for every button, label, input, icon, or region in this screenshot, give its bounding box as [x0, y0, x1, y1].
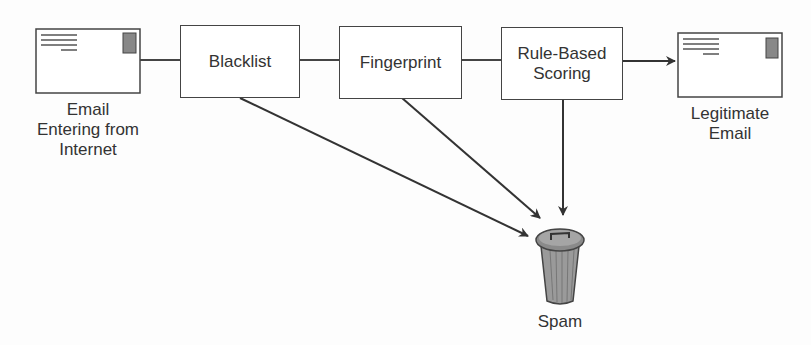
label-line: Internet — [28, 140, 148, 160]
node-label: Scoring — [533, 64, 591, 84]
spam-label: Spam — [520, 312, 600, 332]
node-label: Fingerprint — [360, 53, 441, 73]
rule-based-scoring-node: Rule-Based Scoring — [501, 27, 623, 100]
blacklist-node: Blacklist — [180, 25, 300, 98]
envelope-icon — [36, 29, 140, 93]
legitimate-email-label: Legitimate Email — [670, 104, 790, 144]
input-email-label: Email Entering from Internet — [28, 100, 148, 160]
node-label: Blacklist — [209, 52, 271, 72]
envelope-icon — [678, 33, 782, 97]
label-line: Entering from — [28, 120, 148, 140]
node-label: Rule-Based — [518, 44, 607, 64]
label-line: Email — [28, 100, 148, 120]
label-line: Email — [670, 124, 790, 144]
label-line: Legitimate — [670, 104, 790, 124]
trash-can-icon — [536, 229, 584, 304]
fingerprint-node: Fingerprint — [339, 26, 462, 99]
spam-filter-diagram: Email Entering from Internet Blacklist F… — [0, 0, 811, 345]
label-line: Spam — [538, 312, 582, 331]
